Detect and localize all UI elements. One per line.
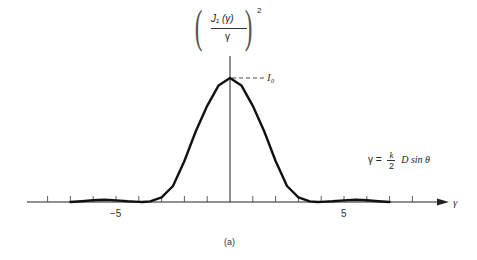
- formula-frac-num: k: [387, 150, 395, 161]
- y-label-numerator: J₁ (γ): [211, 13, 234, 24]
- formula-frac-den: 2: [387, 161, 395, 171]
- formula-lhs: γ =: [368, 154, 382, 165]
- formula-fraction: k 2: [387, 150, 395, 171]
- gamma-formula: γ = k 2 D sin θ: [368, 150, 430, 171]
- x-axis-label: γ: [453, 196, 457, 208]
- fraction-bar: [211, 28, 247, 29]
- left-paren: (: [195, 4, 203, 50]
- formula-rhs: D sin θ: [401, 154, 430, 165]
- y-label-denominator: γ: [225, 31, 230, 42]
- x-axis-arrow-icon: [437, 199, 449, 206]
- figure-caption: (a): [224, 237, 235, 247]
- y-axis-label: ( J₁ (γ) γ ) 2: [197, 4, 265, 62]
- peak-label: I₀: [267, 71, 275, 83]
- tick-label-5: 5: [341, 208, 347, 219]
- y-label-exponent: 2: [257, 6, 261, 15]
- tick-label-neg5: −5: [110, 208, 121, 219]
- right-paren: ): [245, 4, 253, 50]
